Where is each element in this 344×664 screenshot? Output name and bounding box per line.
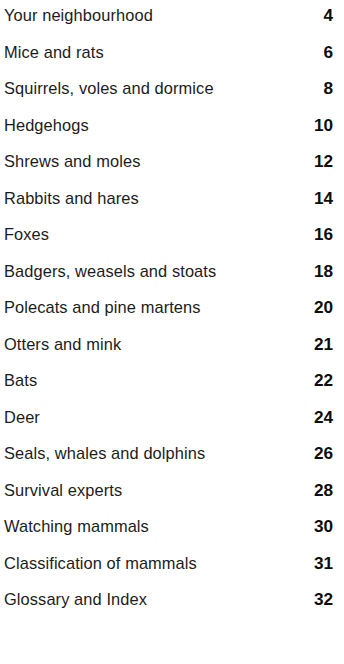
- table-of-contents: Your neighbourhood 4 Mice and rats 6 Squ…: [0, 0, 344, 664]
- toc-entry[interactable]: Polecats and pine martens 20: [4, 299, 333, 336]
- toc-entry-title: Glossary and Index: [4, 591, 147, 607]
- toc-entry-title: Otters and mink: [4, 336, 121, 352]
- toc-entry-page-number: 32: [307, 591, 333, 608]
- toc-entry[interactable]: Survival experts 28: [4, 482, 333, 519]
- toc-entry[interactable]: Glossary and Index 32: [4, 591, 333, 628]
- toc-entry[interactable]: Mice and rats 6: [4, 44, 333, 81]
- toc-entry-page-number: 28: [307, 482, 333, 499]
- toc-entry-page-number: 22: [307, 372, 333, 389]
- toc-entry-page-number: 10: [307, 117, 333, 134]
- toc-entry-title: Classification of mammals: [4, 555, 197, 571]
- toc-entry-page-number: 30: [307, 518, 333, 535]
- toc-entry-page-number: 31: [307, 555, 333, 572]
- toc-entry-title: Hedgehogs: [4, 117, 89, 133]
- toc-entry-page-number: 18: [307, 263, 333, 280]
- toc-entry-page-number: 24: [307, 409, 333, 426]
- toc-entry-title: Shrews and moles: [4, 153, 140, 169]
- toc-entry[interactable]: Your neighbourhood 4: [4, 7, 333, 44]
- toc-entry-page-number: 12: [307, 153, 333, 170]
- toc-entry-page-number: 6: [307, 44, 333, 61]
- toc-entry[interactable]: Shrews and moles 12: [4, 153, 333, 190]
- toc-entry-title: Watching mammals: [4, 518, 149, 534]
- toc-entry[interactable]: Squirrels, voles and dormice 8: [4, 80, 333, 117]
- toc-entry-title: Deer: [4, 409, 40, 425]
- toc-entry-title: Rabbits and hares: [4, 190, 139, 206]
- toc-entry-title: Badgers, weasels and stoats: [4, 263, 216, 279]
- toc-entry-title: Seals, whales and dolphins: [4, 445, 205, 461]
- toc-entry-title: Bats: [4, 372, 37, 388]
- toc-entry-page-number: 8: [307, 80, 333, 97]
- toc-entry[interactable]: Bats 22: [4, 372, 333, 409]
- toc-entry[interactable]: Badgers, weasels and stoats 18: [4, 263, 333, 300]
- toc-entry[interactable]: Hedgehogs 10: [4, 117, 333, 154]
- toc-entry-page-number: 21: [307, 336, 333, 353]
- toc-entry-title: Polecats and pine martens: [4, 299, 201, 315]
- toc-entry-page-number: 20: [307, 299, 333, 316]
- toc-entry[interactable]: Foxes 16: [4, 226, 333, 263]
- toc-entry-title: Mice and rats: [4, 44, 104, 60]
- toc-entry[interactable]: Otters and mink 21: [4, 336, 333, 373]
- toc-entry[interactable]: Classification of mammals 31: [4, 555, 333, 592]
- toc-entry-page-number: 16: [307, 226, 333, 243]
- toc-entry-title: Squirrels, voles and dormice: [4, 80, 214, 96]
- toc-entry-title: Your neighbourhood: [4, 7, 153, 23]
- toc-entry[interactable]: Rabbits and hares 14: [4, 190, 333, 227]
- toc-entry-page-number: 4: [307, 7, 333, 24]
- toc-entry[interactable]: Seals, whales and dolphins 26: [4, 445, 333, 482]
- toc-entry-title: Foxes: [4, 226, 49, 242]
- toc-entry-title: Survival experts: [4, 482, 122, 498]
- toc-entry-page-number: 14: [307, 190, 333, 207]
- toc-entry[interactable]: Deer 24: [4, 409, 333, 446]
- toc-entry[interactable]: Watching mammals 30: [4, 518, 333, 555]
- toc-entry-page-number: 26: [307, 445, 333, 462]
